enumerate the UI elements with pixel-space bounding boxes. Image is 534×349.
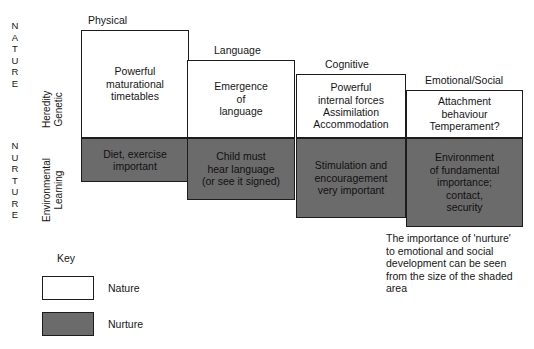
cell-cognitive-nature-text: Powerful internal forces Assimilation Ac… [310, 81, 391, 131]
text-line: Emergence [214, 80, 268, 92]
cell-emotional-nature: Attachment behaviour Temperament? [406, 90, 523, 138]
text-line: Diet, exercise [103, 148, 167, 160]
text-line: security [446, 201, 482, 213]
axis-nature-letter: T [6, 43, 24, 55]
axis-label-nurture: N U R T U R E [6, 140, 24, 221]
column-header-physical: Physical [88, 14, 127, 26]
cell-physical-nurture: Diet, exercise important [81, 138, 189, 182]
axis-nurture-letter: E [6, 209, 24, 221]
cell-cognitive-nurture-text: Stimulation and encouragement very impor… [312, 159, 391, 196]
key-swatch-nurture [42, 312, 94, 336]
key-label-nurture: Nurture [108, 318, 143, 330]
column-header-cognitive: Cognitive [325, 58, 369, 70]
text-line: Powerful [331, 81, 372, 93]
axis-nurture-letter: R [6, 163, 24, 175]
axis-environmental-line2: Learning [53, 158, 65, 222]
text-line: maturational [106, 78, 164, 90]
axis-nature-letter: R [6, 66, 24, 78]
key-swatch-nature [42, 276, 94, 300]
cell-language-nature-text: Emergence of language [211, 80, 271, 117]
axis-nurture-letter: U [6, 152, 24, 164]
axis-label-environmental-learning: Environmental Learning [41, 158, 64, 222]
text-line: of [237, 93, 246, 105]
axis-label-nature: N A T U R E [6, 20, 24, 89]
text-line: important [113, 160, 157, 172]
cell-physical-nurture-text: Diet, exercise important [100, 148, 170, 173]
axis-environmental-line1: Environmental [41, 158, 53, 222]
text-line: of fundamental [430, 164, 499, 176]
key-title: Key [57, 252, 75, 264]
column-header-language: Language [214, 44, 261, 56]
text-line: very important [318, 184, 385, 196]
cell-cognitive-nurture: Stimulation and encouragement very impor… [296, 138, 406, 218]
axis-nature-letter: N [6, 20, 24, 32]
cell-physical-nature: Powerful maturational timetables [81, 30, 189, 138]
cell-emotional-nurture-text: Environment of fundamental importance; c… [427, 151, 502, 213]
text-line: internal forces [318, 94, 384, 106]
text-line: contact, [446, 189, 483, 201]
column-header-emotional-social: Emotional/Social [425, 74, 503, 86]
axis-label-heredity-genetic: Heredity Genetic [41, 91, 64, 128]
text-line: Stimulation and [315, 159, 387, 171]
text-line: hear language [207, 163, 274, 175]
text-line: Attachment [438, 95, 491, 107]
cell-physical-nature-text: Powerful maturational timetables [103, 65, 167, 102]
text-line: (or see it signed) [202, 175, 280, 187]
axis-nature-letter: A [6, 32, 24, 44]
text-line: Child must [216, 150, 266, 162]
cell-emotional-nature-text: Attachment behaviour Temperament? [426, 95, 502, 132]
axis-heredity-line1: Heredity [41, 91, 53, 128]
text-line: behaviour [441, 108, 487, 120]
text-line: Environment [435, 151, 494, 163]
cell-language-nurture-text: Child must hear language (or see it sign… [199, 150, 283, 187]
key-label-nature: Nature [108, 282, 140, 294]
text-line: Assimilation [323, 106, 379, 118]
text-line: Temperament? [429, 120, 499, 132]
text-line: timetables [111, 90, 159, 102]
cell-language-nature: Emergence of language [187, 60, 295, 138]
text-line: Powerful [115, 65, 156, 77]
axis-heredity-line2: Genetic [53, 91, 65, 128]
text-line: importance; [437, 176, 492, 188]
cell-language-nurture: Child must hear language (or see it sign… [187, 138, 295, 200]
axis-nurture-letter: U [6, 186, 24, 198]
axis-nurture-letter: N [6, 140, 24, 152]
axis-nurture-letter: T [6, 175, 24, 187]
cell-cognitive-nature: Powerful internal forces Assimilation Ac… [296, 74, 406, 138]
text-line: encouragement [315, 172, 388, 184]
axis-nature-letter: E [6, 78, 24, 90]
cell-emotional-nurture: Environment of fundamental importance; c… [406, 138, 523, 227]
axis-nature-letter: U [6, 55, 24, 67]
text-line: language [219, 105, 262, 117]
text-line: Accommodation [313, 118, 388, 130]
caption-shaded-area: The importance of 'nurture' to emotional… [386, 232, 522, 295]
axis-nurture-letter: R [6, 198, 24, 210]
